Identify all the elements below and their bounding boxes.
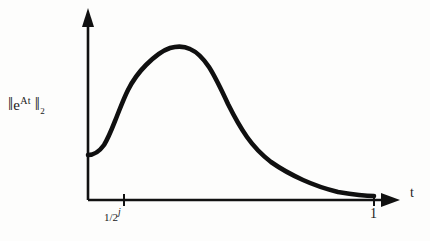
norm-subscript: 2 bbox=[40, 106, 45, 116]
x-tick-label-1-exponent: j bbox=[118, 206, 121, 217]
plot-canvas bbox=[0, 0, 430, 241]
x-tick-label-2: 1 bbox=[370, 207, 377, 221]
x-tick-label-1: 1/2j bbox=[104, 207, 121, 224]
x-tick-label-1-main: 1/2 bbox=[104, 211, 118, 223]
y-axis-arrowhead-icon bbox=[82, 8, 94, 27]
exponential-exponent: At bbox=[20, 95, 30, 106]
y-axis-label: ‖eAt ‖2 bbox=[8, 95, 45, 116]
x-axis-label: t bbox=[410, 186, 414, 200]
figure-container: ‖eAt ‖2 1/2j 1 t bbox=[0, 0, 430, 241]
x-axis-arrowhead-icon bbox=[381, 193, 400, 207]
norm-curve bbox=[88, 47, 374, 196]
